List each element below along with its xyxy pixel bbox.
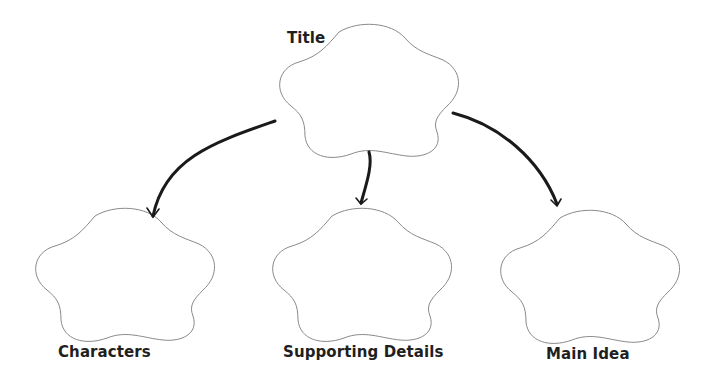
cloud-main-idea: [501, 210, 680, 343]
label-main-idea: Main Idea: [546, 345, 630, 363]
cloud-supporting-details: [273, 208, 452, 341]
arrow-to-supporting-details: [356, 152, 370, 204]
arrow-to-characters: [147, 121, 275, 217]
arrow-to-main-idea: [453, 113, 561, 206]
label-characters: Characters: [58, 343, 151, 361]
organizer-canvas: [0, 0, 707, 383]
label-supporting-details: Supporting Details: [283, 343, 444, 361]
cloud-characters: [36, 208, 215, 341]
label-title: Title: [287, 29, 325, 47]
